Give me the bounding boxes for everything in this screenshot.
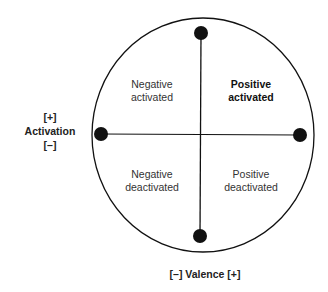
quadrant-line: Positive: [206, 78, 296, 91]
activation-axis-label: [+] Activation [–]: [10, 110, 90, 152]
right-dot: [293, 128, 307, 142]
quadrant-line: activated: [206, 91, 296, 104]
quadrant-positive-activated: Positive activated: [206, 78, 296, 104]
valence-axis-label: [–] Valence [+]: [140, 268, 270, 280]
quadrant-line: deactivated: [107, 181, 197, 194]
quadrant-line: Positive: [206, 168, 296, 181]
bottom-dot: [193, 229, 207, 243]
top-dot: [194, 26, 208, 40]
activation-plus: [+]: [10, 110, 90, 124]
quadrant-positive-deactivated: Positive deactivated: [206, 168, 296, 194]
quadrant-line: deactivated: [206, 181, 296, 194]
quadrant-negative-deactivated: Negative deactivated: [107, 168, 197, 194]
activation-minus: [–]: [10, 138, 90, 152]
quadrant-negative-activated: Negative activated: [107, 78, 197, 104]
quadrant-line: Negative: [107, 168, 197, 181]
horizontal-axis-line: [101, 134, 300, 135]
left-dot: [94, 127, 108, 141]
quadrant-line: activated: [107, 91, 197, 104]
quadrant-line: Negative: [107, 78, 197, 91]
activation-title: Activation: [10, 124, 90, 138]
